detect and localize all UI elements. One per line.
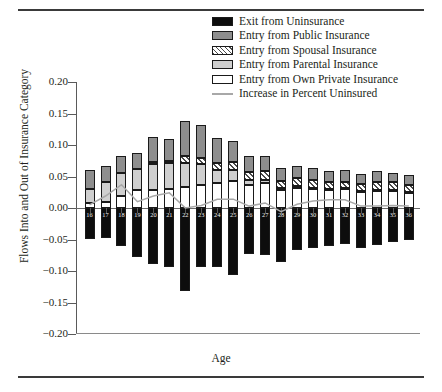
y-tick-label-0: 0.20 bbox=[28, 75, 68, 87]
y-tick-3 bbox=[68, 177, 76, 178]
y-tick-5 bbox=[68, 240, 76, 241]
y-tick-label-2: 0.10 bbox=[28, 138, 68, 150]
legend-swatch-1 bbox=[212, 31, 233, 40]
legend-item-2: Entry from Spousal Insurance bbox=[212, 43, 434, 58]
legend-label-1: Entry from Public Insurance bbox=[239, 29, 370, 42]
legend-swatch-0 bbox=[212, 17, 233, 26]
legend-label-0: Exit from Uninsurance bbox=[239, 15, 344, 28]
y-tick-label-5: −0.05 bbox=[28, 233, 68, 245]
x-axis-label: Age bbox=[0, 352, 442, 364]
legend-label-3: Entry from Parental Insurance bbox=[239, 58, 378, 71]
y-tick-6 bbox=[68, 271, 76, 272]
y-tick-8 bbox=[68, 334, 76, 335]
y-tick-7 bbox=[68, 303, 76, 304]
increase-uninsured-line bbox=[76, 82, 420, 334]
figure-top-rule bbox=[18, 9, 424, 11]
y-tick-4 bbox=[68, 208, 76, 209]
line-increase-pct-uninsured bbox=[90, 185, 409, 212]
y-tick-label-3: 0.05 bbox=[28, 170, 68, 182]
legend-swatch-2 bbox=[212, 46, 233, 55]
legend-label-2: Entry from Spousal Insurance bbox=[239, 44, 377, 57]
y-tick-label-6: −0.10 bbox=[28, 264, 68, 276]
y-tick-2 bbox=[68, 145, 76, 146]
plot-area: 0.200.150.100.050.00−0.05−0.10−0.15−0.20… bbox=[76, 82, 420, 334]
y-tick-label-8: −0.20 bbox=[28, 327, 68, 339]
legend-item-0: Exit from Uninsurance bbox=[212, 14, 434, 29]
y-tick-label-4: 0.00 bbox=[28, 201, 68, 213]
figure-container: Exit from UninsuranceEntry from Public I… bbox=[0, 0, 442, 392]
y-tick-0 bbox=[68, 82, 76, 83]
y-tick-label-7: −0.15 bbox=[28, 296, 68, 308]
figure-bottom-rule bbox=[18, 376, 424, 378]
legend-item-1: Entry from Public Insurance bbox=[212, 29, 434, 44]
y-tick-1 bbox=[68, 114, 76, 115]
y-tick-label-1: 0.15 bbox=[28, 107, 68, 119]
legend-item-3: Entry from Parental Insurance bbox=[212, 58, 434, 73]
legend-swatch-3 bbox=[212, 60, 233, 69]
